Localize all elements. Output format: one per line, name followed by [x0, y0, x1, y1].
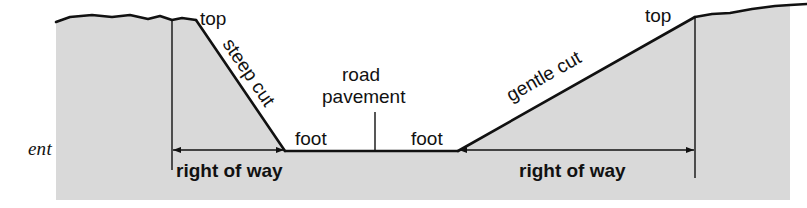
- label-top-right: top: [645, 5, 671, 26]
- cross-section-drawing: top top steep cut gentle cut road paveme…: [0, 0, 807, 208]
- label-pavement: pavement: [322, 86, 406, 107]
- road-cross-section-figure: ent: [0, 0, 807, 208]
- label-road: road: [342, 64, 380, 85]
- label-foot-right: foot: [411, 128, 443, 149]
- label-top-left: top: [200, 8, 226, 29]
- ground-fill-shape: [56, 5, 790, 200]
- label-right-of-way-right: right of way: [519, 160, 626, 181]
- label-right-of-way-left: right of way: [176, 160, 283, 181]
- label-foot-left: foot: [295, 128, 327, 149]
